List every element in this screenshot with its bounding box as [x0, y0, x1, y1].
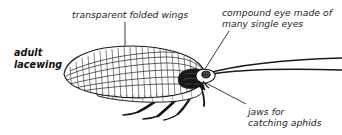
- leg-mid-tarsus: [123, 112, 138, 115]
- label-compound-eye: compound eye made of many single eyes: [222, 7, 332, 29]
- leg-front-tarsus: [143, 116, 158, 119]
- antennae-group: [205, 58, 342, 75]
- label-transparent-folded-wings: transparent folded wings: [72, 9, 188, 20]
- antenna-lower: [205, 69, 342, 75]
- lacewing-figure: adult lacewing transparent folded wings …: [0, 0, 342, 135]
- leg-hind-tarsus: [164, 114, 178, 120]
- leader-jaws: [204, 82, 246, 104]
- figure-title: adult lacewing: [14, 47, 62, 71]
- label-jaws-for-catching-aphids: jaws for catching aphids: [248, 106, 322, 128]
- leader-eye: [203, 31, 229, 72]
